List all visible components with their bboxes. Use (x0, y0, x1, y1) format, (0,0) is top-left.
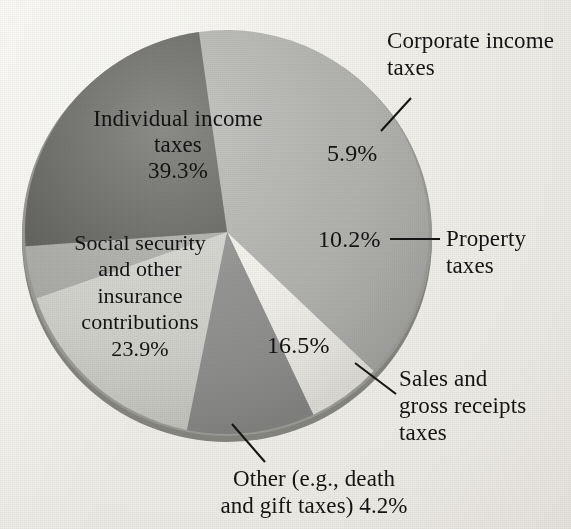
label-sales-and-gross-receipts-taxes: Sales and gross receipts taxes (399, 366, 565, 447)
value-label-corporate-income-taxes: 5.9% (327, 140, 377, 167)
label-social-security-contributions: Social security and other insurance cont… (48, 230, 232, 362)
label-property-taxes: Property taxes (446, 225, 566, 279)
label-corporate-income-taxes: Corporate income taxes (387, 28, 571, 81)
value-label-sales-and-gross-receipts-taxes: 16.5% (267, 332, 330, 359)
figure-canvas: Corporate income taxes Individual income… (0, 0, 571, 529)
label-other-death-and-gift-taxes: Other (e.g., death and gift taxes) 4.2% (183, 466, 445, 520)
label-individual-income-taxes: Individual income taxes 39.3% (63, 106, 293, 185)
value-label-property-taxes: 10.2% (318, 226, 381, 253)
